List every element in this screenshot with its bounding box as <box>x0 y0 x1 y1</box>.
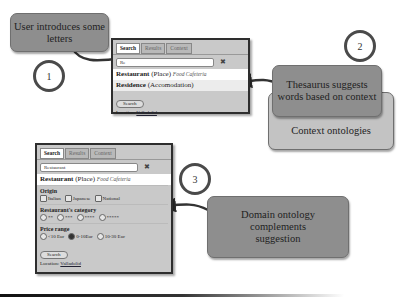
search-input[interactable]: Re <box>116 58 214 67</box>
step-2-badge: 2 <box>344 30 376 62</box>
category-option-2[interactable]: ** <box>40 214 53 221</box>
clear-icon[interactable]: ✖ <box>220 59 226 66</box>
origin-section: Origin Italian Japanese National <box>40 185 168 204</box>
tab-results[interactable]: Results <box>141 43 165 54</box>
radio-selected[interactable] <box>68 233 75 240</box>
suggestion-term: Restaurant <box>40 175 73 183</box>
suggestion-item[interactable]: Restaurant (Place) Food Cafeteria <box>113 69 248 80</box>
radio[interactable] <box>97 233 104 240</box>
callout-text: Thesaurus suggests words based on contex… <box>273 79 381 103</box>
category-title: Restaurant's category <box>40 207 168 214</box>
checkbox[interactable] <box>65 195 72 202</box>
checkbox[interactable] <box>40 195 47 202</box>
tab-search[interactable]: Search <box>40 148 64 159</box>
checkbox[interactable] <box>95 195 102 202</box>
suggestion-category: (Place) <box>75 175 95 183</box>
suggestion-term: Residence <box>116 81 146 89</box>
suggestion-category: (Accomodation) <box>148 81 194 89</box>
origin-title: Origin <box>40 188 168 195</box>
tab-context[interactable]: Context <box>90 148 115 159</box>
category-option-5[interactable]: ***** <box>99 214 120 221</box>
suggestion-term: Restaurant <box>116 70 149 78</box>
option-label: Japanese <box>73 195 91 202</box>
step-3-badge: 3 <box>179 163 211 195</box>
callout-text: User introduces some letters <box>11 21 108 45</box>
tab-bar: Search Results Context <box>37 145 171 159</box>
tab-results[interactable]: Results <box>65 148 89 159</box>
callout-domain-ontology: Domain ontology complements suggestion <box>207 196 349 258</box>
price-option-0-10[interactable]: 0-10Eur <box>68 233 92 240</box>
option-label: ** <box>48 214 53 221</box>
step-number: 1 <box>47 71 52 82</box>
tab-search[interactable]: Search <box>116 43 140 54</box>
suggestion-item[interactable]: Restaurant (Place) Food Cafeteria <box>37 174 171 185</box>
suggestion-category: (Place) <box>151 70 171 78</box>
option-label: Italian <box>48 195 61 202</box>
location-link[interactable]: Valladolid <box>60 261 81 266</box>
price-option-lt10[interactable]: <10 Eur <box>40 233 64 240</box>
option-label: *** <box>65 214 73 221</box>
option-label: 10-30 Eur <box>105 233 125 240</box>
step-number: 2 <box>358 41 363 52</box>
category-option-3[interactable]: *** <box>57 214 73 221</box>
option-label: 0-10Eur <box>76 233 92 240</box>
origin-option-japanese[interactable]: Japanese <box>65 195 91 202</box>
search-input[interactable]: Restaurant <box>40 163 138 172</box>
option-label: <10 Eur <box>48 233 64 240</box>
step-1-badge: 1 <box>33 60 65 92</box>
price-option-10-30[interactable]: 10-30 Eur <box>97 233 125 240</box>
clear-icon[interactable]: ✖ <box>144 164 150 171</box>
option-label: ***** <box>107 214 120 221</box>
option-label: **** <box>85 214 95 221</box>
radio[interactable] <box>57 214 64 221</box>
suggestion-item[interactable]: Residence (Accomodation) <box>113 80 248 91</box>
suggestion-tags: Food Cafeteria <box>97 176 131 182</box>
radio[interactable] <box>40 214 47 221</box>
tab-context[interactable]: Context <box>166 43 191 54</box>
price-title: Price range <box>40 226 168 233</box>
search-button[interactable]: Search <box>116 100 144 108</box>
search-panel-step3: Search Results Context Restaurant ✖ Rest… <box>35 143 173 274</box>
location-row: Location: Valladolid <box>116 109 245 116</box>
search-button[interactable]: Search <box>40 251 68 259</box>
radio[interactable] <box>77 214 84 221</box>
location-label: Location: <box>116 110 135 115</box>
tab-bar: Search Results Context <box>113 40 248 54</box>
suggestion-tags: Food Cafeteria <box>173 71 207 77</box>
origin-option-italian[interactable]: Italian <box>40 195 61 202</box>
radio[interactable] <box>40 233 47 240</box>
callout-text: Domain ontology complements suggestion <box>233 209 323 245</box>
category-section: Restaurant's category ** *** **** ***** <box>40 204 168 223</box>
origin-option-national[interactable]: National <box>95 195 120 202</box>
location-row: Location: Valladolid <box>40 260 168 267</box>
price-section: Price range <10 Eur 0-10Eur 10-30 Eur <box>40 223 168 242</box>
callout-thesaurus-suggests: Thesaurus suggests words based on contex… <box>272 65 382 117</box>
location-label: Location: <box>40 261 59 266</box>
callout-text: Context ontologies <box>291 125 371 137</box>
location-link[interactable]: Valladolid <box>136 110 157 115</box>
search-panel-step1: Search Results Context Re ✖ Restaurant (… <box>111 38 250 114</box>
option-label: National <box>103 195 120 202</box>
category-option-4[interactable]: **** <box>77 214 95 221</box>
radio[interactable] <box>99 214 106 221</box>
callout-user-introduces-letters: User introduces some letters <box>10 13 109 52</box>
step-number: 3 <box>193 174 198 185</box>
